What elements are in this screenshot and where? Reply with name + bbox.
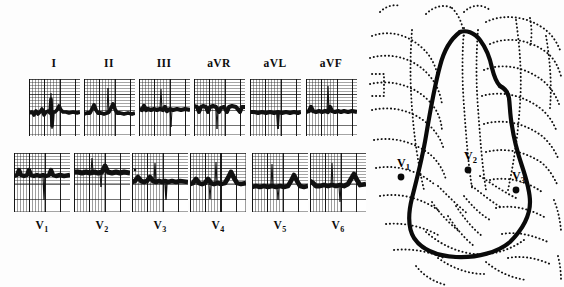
ecg-trace-V2 [74,153,130,212]
ecg-trace-III [139,79,190,136]
lead-label-aVR: aVR [193,57,245,69]
ecg-trace-aVL [250,79,301,136]
lead-label-V4: V4 [190,219,246,234]
lead-label-V5: V5 [252,219,308,234]
chest-diagram-svg [368,0,564,287]
ecg-strip-aVR [194,79,245,136]
lead-label-II: II [84,57,134,69]
ecg-strip-II [84,79,135,136]
ecg-trace-V6 [310,153,366,212]
ecg-strip-V3 [132,153,188,212]
lead-label-aVL: aVL [249,57,301,69]
lead-label-I: I [29,57,79,69]
ecg-trace-V4 [190,153,246,212]
electrode-dot-V2 [465,167,472,174]
lead-label-V2: V2 [74,219,130,234]
ecg-strip-I [29,79,80,136]
ecg-strip-V4 [190,153,246,212]
ecg-trace-aVR [194,79,245,136]
lead-label-aVF: aVF [305,57,357,69]
ecg-trace-I [29,79,80,136]
lead-label-V3: V3 [132,219,188,234]
rib-and-lung-outlines [370,5,561,285]
ecg-trace-V3 [132,153,188,212]
ecg-strip-III [139,79,190,136]
ecg-panel: I II III aVR aVL aVF [0,0,370,287]
ecg-strip-aVF [306,79,357,136]
electrode-label-V3: V3 [512,169,525,185]
lead-label-V6: V6 [310,219,366,234]
electrode-dot-V1 [398,174,405,181]
ecg-strip-V5 [252,153,308,212]
ecg-strip-V6 [310,153,366,212]
cardiac-silhouette-outline [409,31,530,257]
electrode-label-V2: V2 [464,149,477,165]
electrode-label-V1: V1 [397,156,410,172]
ecg-trace-aVF [306,79,357,136]
ecg-trace-V5 [252,153,308,212]
lead-label-III: III [139,57,189,69]
ecg-strip-V1 [14,153,70,212]
ecg-strip-aVL [250,79,301,136]
ecg-trace-V1 [14,153,70,212]
figure-root: I II III aVR aVL aVF [0,0,564,287]
chest-diagram-panel: V1 V2 V3 [368,0,564,287]
ecg-strip-V2 [74,153,130,212]
electrode-dot-V3 [513,187,520,194]
ecg-trace-II [84,79,135,136]
lead-label-V1: V1 [14,219,70,234]
